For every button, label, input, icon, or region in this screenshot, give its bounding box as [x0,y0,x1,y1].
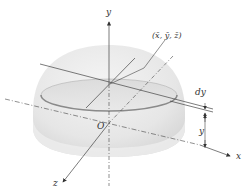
y-axis-label: y [105,7,112,17]
centroid-label: (x̄, ȳ, z̄) [152,31,182,40]
hemisphere-diagram: y x z O (x̄, ȳ, z̄) dy y [0,0,251,192]
y-height-label: y [198,126,205,136]
dy-label: dy [195,87,207,97]
x-axis-label: x [236,151,241,161]
origin-label: O [97,121,105,131]
z-axis-label: z [52,178,58,188]
